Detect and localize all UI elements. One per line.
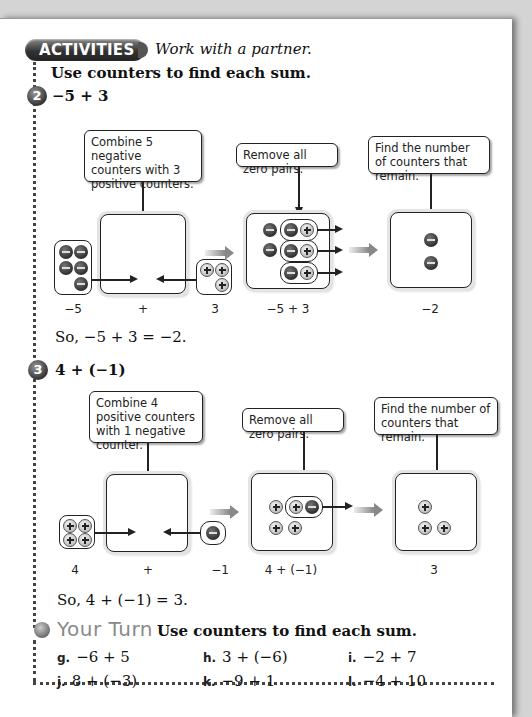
zero-pair <box>280 262 318 284</box>
arrow-right-icon <box>335 225 343 233</box>
counter-tray-negative <box>54 240 92 295</box>
plus-counter <box>418 500 432 514</box>
plus-counter <box>418 521 432 535</box>
exercise-expression: 8 + (−3) <box>72 672 137 690</box>
caption: + <box>133 563 163 577</box>
exercise-label: l. <box>348 675 357 689</box>
your-turn-title: Your Turn <box>57 617 153 641</box>
caption: + <box>128 302 158 316</box>
exercise-expression: −6 + 5 <box>76 648 130 666</box>
exercise-g: g.−6 + 5 <box>57 648 130 666</box>
counting-mat-result <box>390 212 472 288</box>
plus-counter <box>437 521 451 535</box>
arrow-line <box>92 279 132 281</box>
callout-find-remaining: Find the number of counters that remain. <box>368 136 490 174</box>
caption: −2 <box>415 302 445 316</box>
activity-number-badge: 2 <box>27 86 47 106</box>
plus-counter <box>269 500 283 514</box>
activity-conclusion: So, 4 + (−1) = 3. <box>57 591 188 609</box>
activities-subtitle: Work with a partner. <box>155 40 312 58</box>
minus-counter <box>206 526 220 540</box>
exercise-label: g. <box>57 651 70 665</box>
plus-counter <box>300 223 314 237</box>
caption: −1 <box>205 563 235 577</box>
caption: 4 + (−1) <box>256 563 326 577</box>
exercise-expression: −4 + 10 <box>363 672 426 690</box>
gray-arrow-icon <box>349 247 369 253</box>
exercise-expression: −9 + 1 <box>222 672 276 690</box>
counter-tray-negative <box>200 521 226 545</box>
arrow-right-icon <box>345 502 353 510</box>
callout-find-remaining: Find the number of counters that remain. <box>374 397 498 435</box>
plus-counter <box>78 519 92 533</box>
exercise-j: j.8 + (−3) <box>57 672 137 690</box>
exercise-expression: 3 + (−6) <box>222 648 287 666</box>
arrow-line <box>430 174 432 214</box>
zero-pair <box>280 240 318 262</box>
minus-counter <box>59 245 73 259</box>
plus-counter <box>78 533 92 547</box>
minus-counter <box>74 245 88 259</box>
arrow-line <box>318 272 336 274</box>
activity-expression: 4 + (−1) <box>55 361 126 379</box>
callout-combine: Combine 4 positive counters with 1 negat… <box>89 391 203 443</box>
zero-pair <box>285 496 323 518</box>
activities-badge: ACTIVITIES <box>25 39 145 61</box>
gray-arrow-icon <box>205 250 225 256</box>
arrow-right-icon <box>128 528 136 536</box>
arrow-line <box>318 229 336 231</box>
arrow-right-icon <box>130 275 138 283</box>
arrow-line <box>95 532 130 534</box>
arrow-left-icon <box>156 275 164 283</box>
minus-counter <box>284 223 298 237</box>
exercise-label: k. <box>203 675 216 689</box>
your-turn-instructions: Use counters to find each sum. <box>157 622 417 640</box>
callout-remove-zero-pairs: Remove all zero pairs. <box>242 408 344 432</box>
exercise-h: h.3 + (−6) <box>203 648 288 666</box>
arrow-line <box>170 532 200 534</box>
caption: −5 <box>58 302 88 316</box>
exercise-label: i. <box>348 651 357 665</box>
exercise-expression: −2 + 7 <box>363 648 417 666</box>
minus-counter <box>305 500 319 514</box>
exercise-k: k.−9 + 1 <box>203 672 275 690</box>
dotted-guide-line <box>33 640 36 682</box>
minus-counter <box>263 223 277 237</box>
gray-arrow-icon <box>354 507 374 513</box>
arrow-line <box>163 279 196 281</box>
your-turn-ball-icon <box>34 622 50 638</box>
activity-expression: −5 + 3 <box>52 87 108 105</box>
activity-conclusion: So, −5 + 3 = −2. <box>55 328 187 346</box>
minus-counter <box>284 266 298 280</box>
callout-remove-zero-pairs: Remove all zero pairs. <box>236 143 338 167</box>
exercise-label: h. <box>203 651 216 665</box>
plus-counter <box>289 500 303 514</box>
minus-counter <box>424 256 438 270</box>
dotted-guide-line <box>33 62 36 628</box>
plus-counter <box>269 521 283 535</box>
minus-counter <box>74 261 88 275</box>
minus-counter <box>74 277 88 291</box>
zero-pair <box>280 219 318 241</box>
exercise-l: l.−4 + 10 <box>348 672 426 690</box>
counting-mat-empty <box>106 474 188 552</box>
gray-arrow-icon <box>210 509 230 515</box>
arrow-line <box>323 506 346 508</box>
counting-mat-result <box>395 473 477 551</box>
callout-combine: Combine 5 negative counters with 3 posit… <box>84 130 202 182</box>
minus-counter <box>263 243 277 257</box>
exercise-label: j. <box>57 675 66 689</box>
plus-counter <box>200 263 214 277</box>
minus-counter <box>284 244 298 258</box>
plus-counter <box>300 244 314 258</box>
instructions: Use counters to find each sum. <box>51 64 311 82</box>
plus-counter <box>215 278 229 292</box>
arrow-right-icon <box>335 268 343 276</box>
counter-tray-positive <box>59 515 95 549</box>
caption: 4 <box>60 563 90 577</box>
arrow-right-icon <box>335 246 343 254</box>
arrow-left-icon <box>163 528 171 536</box>
caption: 3 <box>200 302 230 316</box>
exercise-i: i.−2 + 7 <box>348 648 416 666</box>
plus-counter <box>300 266 314 280</box>
